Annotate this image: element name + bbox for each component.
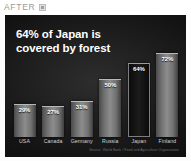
bar-value-japan: 64% <box>129 66 149 72</box>
bar-slot-germany: 31% <box>70 45 93 137</box>
bar-usa: 29% <box>14 104 36 137</box>
bar-value-finland: 72% <box>156 56 178 62</box>
category-label-germany: Germany <box>70 139 93 144</box>
bar-group: 29% 27% 31% 50% <box>13 45 179 137</box>
header-label: AFTER <box>4 3 35 12</box>
bar-germany: 31% <box>71 101 93 137</box>
bar-chart: 29% 27% 31% 50% <box>13 45 179 137</box>
bar-slot-russia: 50% <box>99 45 122 137</box>
bar-value-germany: 31% <box>71 104 93 110</box>
category-label-japan: Japan <box>127 139 150 144</box>
category-label-finland: Finland <box>156 139 179 144</box>
source-note: Source: World Bank / Food and Agricultur… <box>89 149 179 152</box>
category-label-canada: Canada <box>42 139 65 144</box>
slide-panel: 64% of Japan is covered by forest 29% 27… <box>5 15 186 157</box>
category-label-usa: USA <box>13 139 36 144</box>
bar-slot-japan: 64% <box>127 45 150 137</box>
category-axis: USA Canada Germany Russia Japan Finland <box>13 139 179 144</box>
square-badge-icon <box>39 4 46 11</box>
bar-russia: 50% <box>99 79 121 137</box>
bar-value-usa: 29% <box>14 107 36 113</box>
bar-finland: 72% <box>156 53 178 137</box>
bar-value-russia: 50% <box>99 82 121 88</box>
bar-canada: 27% <box>42 106 64 137</box>
bar-japan: 64% <box>128 63 150 137</box>
header-bar: AFTER <box>0 0 191 15</box>
bar-slot-usa: 29% <box>13 45 36 137</box>
bar-value-canada: 27% <box>42 109 64 115</box>
bar-slot-canada: 27% <box>42 45 65 137</box>
bar-slot-finland: 72% <box>156 45 179 137</box>
category-label-russia: Russia <box>99 139 122 144</box>
screenshot-root: AFTER 64% of Japan is covered by forest … <box>0 0 191 161</box>
